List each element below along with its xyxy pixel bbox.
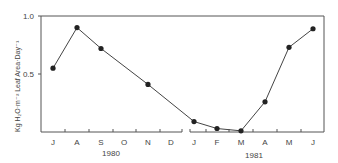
data-series [50, 25, 315, 133]
year-label-1980: 1980 [102, 149, 120, 158]
line-chart: 1.0 0.5 Kg H₂O·m⁻² Leaf Area·Day⁻¹ J A S… [0, 0, 338, 163]
month-label: O [121, 138, 127, 147]
y-tick-label-05: 0.5 [23, 70, 35, 79]
data-point-marker [310, 26, 315, 31]
month-label: N [145, 138, 151, 147]
data-point-marker [214, 126, 219, 131]
month-label: A [262, 138, 268, 147]
month-label: D [168, 138, 174, 147]
data-point-marker [191, 119, 196, 124]
x-month-labels: J A S O N D J F M A M J [51, 138, 315, 147]
month-label: M [238, 138, 245, 147]
data-point-marker [262, 99, 267, 104]
data-point-marker [98, 46, 103, 51]
month-label: J [192, 138, 196, 147]
year-label-1981: 1981 [245, 151, 263, 160]
month-label: F [215, 138, 220, 147]
series-line [53, 28, 313, 131]
month-label: S [98, 138, 103, 147]
y-axis-title: Kg H₂O·m⁻² Leaf Area·Day⁻¹ [14, 40, 22, 132]
data-point-marker [50, 66, 55, 71]
y-tick-label-1: 1.0 [23, 12, 35, 21]
month-label: M [286, 138, 293, 147]
month-label: J [51, 138, 55, 147]
data-point-marker [145, 82, 150, 87]
month-label: J [311, 138, 315, 147]
data-point-marker [74, 25, 79, 30]
data-point-marker [286, 45, 291, 50]
data-point-marker [238, 128, 243, 133]
month-label: A [74, 138, 80, 147]
